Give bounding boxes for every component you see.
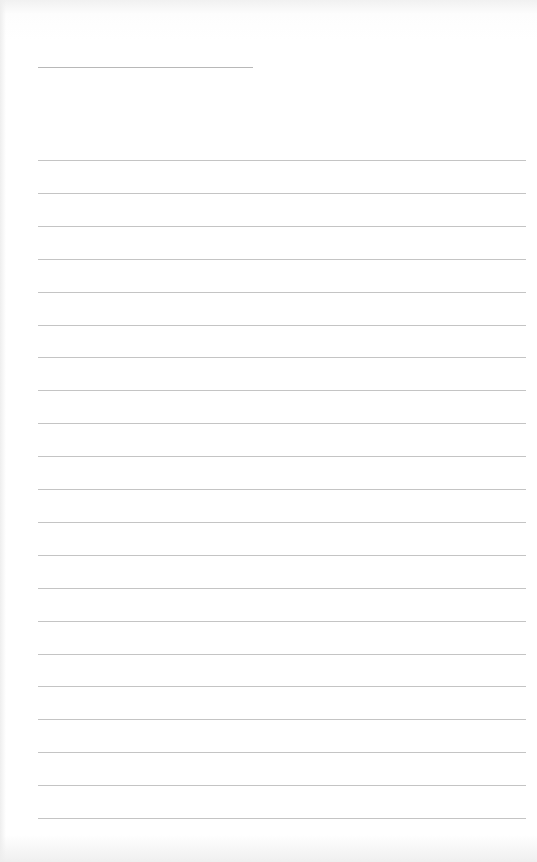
ruled-line	[38, 555, 526, 556]
header-name-line	[38, 67, 253, 68]
ruled-line	[38, 719, 526, 720]
ruled-line	[38, 456, 526, 457]
ruled-line	[38, 423, 526, 424]
ruled-line	[38, 621, 526, 622]
ruled-line	[38, 160, 526, 161]
ruled-line	[38, 818, 526, 819]
ruled-line	[38, 785, 526, 786]
ruled-line	[38, 686, 526, 687]
ruled-line	[38, 588, 526, 589]
ruled-line	[38, 752, 526, 753]
ruled-line	[38, 489, 526, 490]
ruled-line	[38, 522, 526, 523]
ruled-line	[38, 193, 526, 194]
ruled-line	[38, 292, 526, 293]
ruled-line	[38, 357, 526, 358]
ruled-line	[38, 325, 526, 326]
ruled-line	[38, 390, 526, 391]
lined-paper-page	[0, 0, 537, 862]
paper-edge-shadow	[0, 0, 6, 862]
ruled-line	[38, 654, 526, 655]
ruled-line	[38, 259, 526, 260]
ruled-line	[38, 226, 526, 227]
